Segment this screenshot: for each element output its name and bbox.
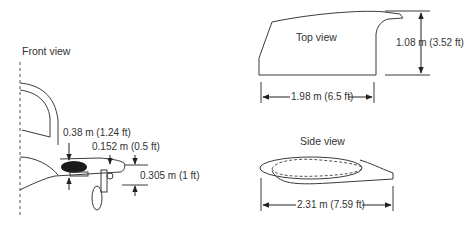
side-view-inner-dashed [272,159,362,176]
front-view: Front view 0.38 m (1.24 ft) 0.152 m (0.5… [20,45,199,218]
dim-top-width: 1.08 m (3.52 ft) [396,37,464,48]
landing-gear [92,170,113,210]
dim-top-length: 1.98 m (6.5 ft) [291,91,353,102]
dim-ground-clearance: 0.305 m (1 ft) [140,170,199,181]
side-view-title: Side view [300,135,345,147]
pod-shape [61,161,87,173]
top-view-title: Top view [296,31,337,43]
diagram-canvas: Front view 0.38 m (1.24 ft) 0.152 m (0.5… [0,0,473,228]
front-view-title: Front view [22,45,71,57]
top-view: Top view 1.08 m (3.52 ft) 1.98 m (6.5 ft… [259,11,464,103]
dim-wall-thickness: 0.152 m (0.5 ft) [92,141,160,152]
dim-pod-height: 0.38 m (1.24 ft) [63,127,131,138]
side-view: Side view 2.31 m (7.59 ft) [260,135,393,211]
top-view-outline [259,11,403,75]
dim-side-length: 2.31 m (7.59 ft) [297,199,365,210]
side-view-hull [272,160,393,184]
